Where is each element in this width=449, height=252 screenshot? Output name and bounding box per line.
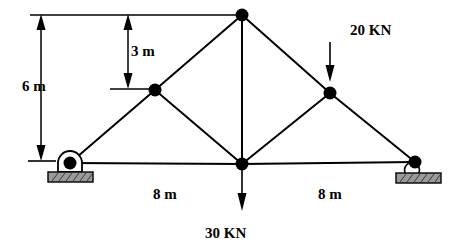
dimension-reference-lines — [28, 15, 238, 161]
truss-figure: 6 m 3 m 8 m 8 m 20 KN 30 KN — [0, 0, 449, 252]
dimension-label-6m: 6 m — [22, 79, 46, 94]
dimension-label-8m-left: 8 m — [153, 187, 177, 202]
member-diagonal-right — [242, 93, 330, 164]
node-left-upper — [149, 84, 162, 97]
dimension-6m-arrowhead-bottom — [37, 145, 46, 161]
load-label-20kn: 20 KN — [350, 23, 391, 38]
node-right-upper — [324, 87, 337, 100]
load-arrow-20kn — [326, 42, 335, 82]
node-left-support — [64, 157, 77, 170]
dimension-6m-arrowhead-top — [37, 14, 46, 30]
member-rafter-left-upper — [155, 15, 242, 90]
dimension-3m-arrowhead-bottom — [124, 73, 133, 89]
load-label-30kn: 30 KN — [205, 226, 246, 241]
dimension-label-8m-right: 8 m — [318, 187, 342, 202]
member-bottom-chord-left — [70, 163, 242, 164]
dimension-label-3m: 3 m — [131, 44, 155, 59]
member-rafter-left-lower — [70, 90, 155, 163]
node-apex — [236, 9, 249, 22]
member-rafter-right-lower — [330, 93, 415, 162]
member-diagonal-left — [155, 90, 242, 164]
load-arrow-30kn-head — [238, 193, 247, 211]
dimension-3m-arrowhead-top — [124, 14, 133, 30]
load-arrow-30kn — [238, 168, 247, 211]
node-right-support — [409, 156, 422, 169]
load-arrow-20kn-head — [326, 65, 335, 82]
member-bottom-chord-right — [242, 162, 415, 164]
member-rafter-right-upper — [242, 15, 330, 93]
